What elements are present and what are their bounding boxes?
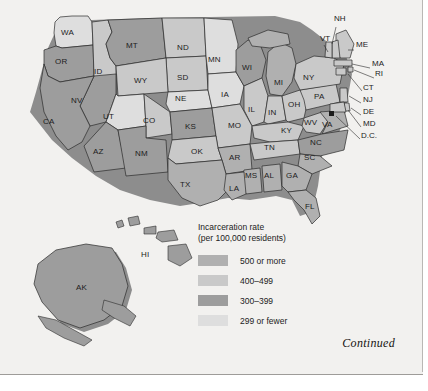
state-label-MT: MT <box>126 41 138 50</box>
state-label-MO: MO <box>228 121 241 130</box>
state-label-MI: MI <box>274 78 283 87</box>
state-label-CA: CA <box>43 117 55 126</box>
hawaii-bigisland <box>168 244 192 266</box>
state-label-WI: WI <box>242 63 252 72</box>
state-label-GA: GA <box>286 171 298 180</box>
state-OR <box>44 45 94 82</box>
leader-label-CT: CT <box>363 83 374 92</box>
state-label-ID: ID <box>94 67 102 76</box>
state-label-OH: OH <box>288 100 300 109</box>
page-canvas: WAORIDMTNDMNWIMINYWYSDNEIAILINOHPANVUTCO… <box>0 0 428 391</box>
state-label-SD: SD <box>177 73 189 82</box>
legend-rows: 500 or more400–499300–399299 or fewer <box>198 254 348 327</box>
state-label-CO: CO <box>143 116 155 125</box>
legend-swatch <box>198 315 228 326</box>
state-label-ND: ND <box>177 43 189 52</box>
state-MA <box>334 60 352 66</box>
state-MN <box>204 18 238 74</box>
hawaii-molokai <box>144 226 156 234</box>
state-label-IA: IA <box>221 90 229 99</box>
leader-label-RI: RI <box>375 69 383 78</box>
state-NJ <box>340 88 348 102</box>
state-KY <box>252 122 304 142</box>
leader-NJ <box>349 96 361 103</box>
legend-row: 299 or fewer <box>198 314 348 327</box>
state-label-TN: TN <box>264 143 275 152</box>
state-label-KS: KS <box>185 122 196 131</box>
state-label-NM: NM <box>135 149 148 158</box>
state-label-HI: HI <box>141 250 149 259</box>
state-DC-marker <box>329 111 334 116</box>
state-ND <box>162 18 206 58</box>
legend-title-line2: (per 100,000 residents) <box>198 233 348 244</box>
leader-label-ME: ME <box>356 40 368 49</box>
state-label-NC: NC <box>310 138 322 147</box>
leader-RI <box>354 70 374 78</box>
state-label-AZ: AZ <box>93 147 104 156</box>
hawaii-oahu <box>128 216 140 226</box>
hawaii-kauai <box>116 220 124 228</box>
state-label-MN: MN <box>208 55 221 64</box>
leader-label-DE: DE <box>363 107 374 116</box>
legend-swatch <box>198 275 228 286</box>
legend-title: Incarceration rate (per 100,000 resident… <box>198 222 348 244</box>
state-VT <box>325 42 332 58</box>
hawaii-maui <box>156 230 178 242</box>
page-margin-bottom <box>0 375 428 391</box>
state-CT <box>336 68 346 75</box>
state-label-LA: LA <box>229 184 239 193</box>
state-label-PA: PA <box>314 92 324 101</box>
leader-MA <box>352 64 370 68</box>
legend-swatch <box>198 295 228 306</box>
state-label-WA: WA <box>61 28 74 37</box>
map-legend: Incarceration rate (per 100,000 resident… <box>198 222 348 334</box>
legend-row: 400–499 <box>198 274 348 287</box>
state-label-IN: IN <box>268 108 276 117</box>
state-label-OR: OR <box>55 57 67 66</box>
state-label-OK: OK <box>191 147 203 156</box>
state-label-AK: AK <box>76 283 87 292</box>
state-label-NE: NE <box>175 94 187 103</box>
state-label-UT: UT <box>103 112 114 121</box>
state-label-NY: NY <box>303 73 315 82</box>
hawaii-islands <box>116 216 192 266</box>
state-label-TX: TX <box>180 180 191 189</box>
leader-label-MD: MD <box>363 119 375 128</box>
state-label-FL: FL <box>305 202 315 211</box>
state-label-KY: KY <box>281 126 292 135</box>
state-RI <box>348 67 353 72</box>
legend-label: 299 or fewer <box>240 316 287 326</box>
state-label-NV: NV <box>71 96 83 105</box>
state-label-SC: SC <box>304 153 316 162</box>
leader-DE <box>351 108 361 115</box>
leader-label-NJ: NJ <box>363 95 373 104</box>
leader-label-NH: NH <box>334 14 346 23</box>
state-label-IL: IL <box>248 105 255 114</box>
legend-title-line1: Incarceration rate <box>198 222 348 233</box>
state-label-WY: WY <box>134 76 147 85</box>
state-label-AR: AR <box>229 153 241 162</box>
legend-label: 400–499 <box>240 276 273 286</box>
state-label-MS: MS <box>245 171 257 180</box>
leader-label-DC: D.C. <box>361 131 377 140</box>
state-label-WV: WV <box>304 118 317 127</box>
legend-swatch <box>198 255 228 266</box>
leader-label-VT: VT <box>320 34 330 43</box>
leader-MD <box>348 110 361 127</box>
leader-label-MA: MA <box>372 59 384 68</box>
state-MD <box>330 102 346 112</box>
legend-label: 300–399 <box>240 296 273 306</box>
state-label-AL: AL <box>264 171 274 180</box>
legend-row: 300–399 <box>198 294 348 307</box>
state-label-VA: VA <box>322 120 332 129</box>
continued-label: Continued <box>342 336 395 351</box>
page-margin-right <box>423 0 428 391</box>
legend-row: 500 or more <box>198 254 348 267</box>
legend-label: 500 or more <box>240 256 286 266</box>
